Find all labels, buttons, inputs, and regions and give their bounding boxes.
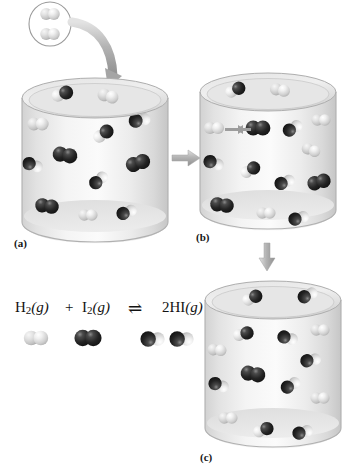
panel-c-label: (c)	[200, 451, 213, 464]
inset-h2-molecule-bottom	[40, 28, 60, 40]
equation-plus-sign: +	[65, 299, 73, 316]
vessel-a	[21, 78, 168, 243]
equation-product-hydrogen-iodide: 2HI(g)	[162, 299, 203, 316]
equation-h2-state: (g)	[31, 299, 49, 315]
added-hydrogen-inset	[29, 2, 71, 46]
molecule-h2	[256, 207, 275, 219]
equation-reactant-hydrogen: H2(g)	[15, 299, 49, 316]
reaction-figure: (a) (b)	[0, 0, 350, 473]
panel-b-label: (b)	[196, 231, 210, 244]
chemical-equation: H2(g) + I2(g) ⇌ 2HI(g)	[10, 299, 205, 361]
vessel-b	[200, 73, 336, 231]
equation-product-label: 2HI	[162, 299, 185, 315]
inset-h2-molecule-top	[40, 8, 60, 20]
molecule-h2	[204, 122, 224, 134]
inset-oval-outline	[29, 2, 71, 46]
molecule-h2	[311, 114, 330, 126]
vessel-c	[205, 281, 341, 449]
vessel-b-top-inner	[207, 79, 329, 110]
panel-a-label: (a)	[14, 237, 27, 250]
molecule-h2	[27, 118, 48, 131]
molecule-h2	[310, 324, 329, 336]
equation-i2-state: (g)	[93, 299, 111, 315]
equilibrium-arrow-icon: ⇌	[128, 298, 142, 319]
molecule-h2	[310, 392, 329, 404]
equation-reactant-iodine: I2(g)	[82, 299, 110, 316]
vessel-a-top-inner	[29, 84, 161, 117]
equation-product-state: (g)	[185, 299, 203, 315]
molecule-h2	[218, 412, 237, 424]
molecule-h2	[78, 209, 97, 221]
